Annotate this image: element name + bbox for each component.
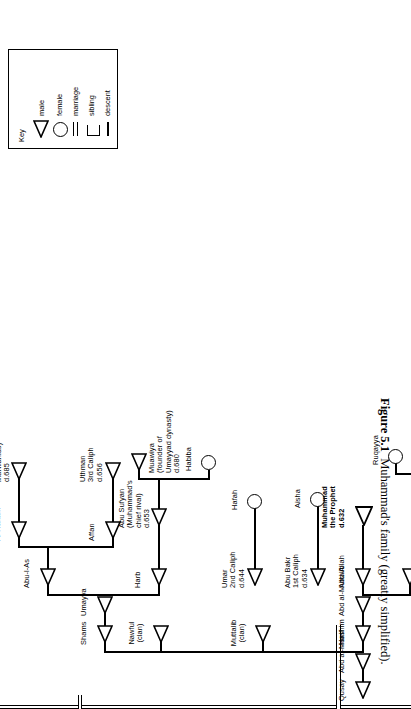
label-umar: Umar 2nd Caliph d.644	[221, 552, 246, 588]
figure-caption-text: Muhammad's family (greatly simplified).	[378, 458, 392, 664]
genealogy-chart: Key male female marriage sibling descent…	[0, 0, 411, 709]
line-daughters-spine	[395, 473, 411, 475]
node-muawiya[interactable]	[131, 455, 146, 471]
label-muhammad: Muhammad the Prophet d.632	[321, 486, 346, 528]
node-abu-sufyan[interactable]	[151, 510, 166, 526]
figure-caption-number: Figure 5.1	[378, 398, 392, 452]
label-marwan-i: Marwan I (founder of Marwanids) d.685	[0, 443, 12, 482]
label-harb: Harb	[134, 572, 142, 588]
node-habiba[interactable]	[201, 455, 216, 470]
line-umar-hafah	[254, 507, 256, 569]
label-abd-allah: Abd-Allah	[338, 555, 346, 588]
line-abu-sufyan-children-spine	[138, 478, 210, 480]
label-habiba: Habiba	[185, 447, 193, 471]
label-shams: Shams	[80, 621, 88, 645]
key-female-icon	[53, 122, 68, 137]
key-legend: Key male female marriage sibling descent	[8, 49, 118, 149]
label-abu-sufyan: Abu Sufyan (Muhammad's chief rival) d.65…	[118, 480, 152, 528]
marriage-uthman-ruqayya-v	[341, 705, 411, 709]
node-shams[interactable]	[97, 627, 112, 643]
line-to-ruqayya	[395, 463, 397, 475]
marriage-muhammad-hafah-v	[82, 705, 185, 709]
line-to-muawiya	[138, 470, 140, 480]
node-qusay[interactable]	[355, 683, 370, 699]
node-abd-al-muttalib[interactable]	[355, 598, 370, 614]
marriage-muhammad-khadija	[0, 705, 40, 709]
key-female-label: female	[55, 94, 64, 116]
node-nawful[interactable]	[153, 627, 168, 643]
node-uthman[interactable]	[105, 464, 120, 480]
line-abu-bakr-aisha	[317, 505, 319, 569]
line-abu-l-as-out	[47, 547, 49, 569]
key-descent-label: descent	[103, 90, 112, 116]
key-male-label: male	[37, 100, 46, 116]
line-al-hakam-marwan	[18, 478, 20, 522]
node-abd-allah[interactable]	[355, 570, 370, 586]
node-abbas[interactable]	[402, 570, 411, 586]
figure-canvas: Key male female marriage sibling descent…	[0, 0, 411, 709]
label-aisha: Aisha	[294, 489, 302, 508]
node-abu-bakr[interactable]	[310, 570, 325, 586]
line-affan-uthman	[112, 478, 114, 522]
label-umayya: Umayya	[80, 588, 88, 616]
label-hashim: Hashim	[338, 619, 346, 645]
key-marriage-label: marriage	[71, 87, 80, 116]
label-nawful: Nawful (clan)	[128, 613, 145, 653]
line-abdallah-muhammad	[362, 525, 364, 569]
node-muttalib[interactable]	[255, 627, 270, 643]
marriage-muhammad-habiba-v	[185, 705, 336, 709]
line-hashim-abdmuttalib	[362, 613, 364, 626]
node-al-hakam[interactable]	[11, 523, 26, 539]
key-descent-icon	[107, 122, 109, 136]
line-qusay-manif	[362, 670, 364, 682]
marriage-muhammad-aisha-v	[40, 705, 78, 709]
label-qusay: Qusay	[338, 679, 346, 701]
key-title: Key	[17, 129, 26, 142]
line-umayya-children-spine	[48, 594, 160, 596]
line-abu-l-as-children-spine	[18, 546, 114, 548]
node-harb[interactable]	[151, 570, 166, 586]
line-harb-abu-sufyan	[158, 525, 160, 569]
node-umar[interactable]	[247, 570, 262, 586]
line-abu-sufyan-out	[158, 479, 160, 509]
node-hashim[interactable]	[355, 627, 370, 643]
node-abu-l-as[interactable]	[40, 570, 55, 586]
node-umayya[interactable]	[97, 598, 112, 614]
line-to-habiba	[208, 470, 210, 480]
key-sibling-label: sibling	[87, 95, 96, 116]
label-hafah: Hafah	[231, 490, 239, 510]
node-muhammad[interactable]	[355, 510, 370, 526]
key-marriage-icon	[73, 122, 78, 136]
node-hafah[interactable]	[247, 494, 262, 509]
label-muttalib: Muttalib (clan)	[230, 613, 247, 653]
node-abd-al-manif[interactable]	[355, 655, 370, 671]
label-abu-bakr: Abu Bakr 1st Caliph d.634	[284, 554, 309, 588]
line-shams-umayya	[104, 613, 106, 626]
node-marwan-i[interactable]	[11, 464, 26, 480]
label-abu-l-as: Abu-l-As	[23, 559, 31, 588]
key-male-icon	[33, 122, 48, 138]
key-sibling-icon	[87, 125, 100, 136]
label-al-hakam: Al-Hakam	[0, 508, 2, 541]
label-affan: Affan	[88, 523, 96, 541]
label-muawiya: Muawiya (founder of Umayyad dynasty) d.6…	[148, 410, 182, 473]
label-uthman: Uthman 3rd Caliph d.656	[79, 447, 104, 482]
